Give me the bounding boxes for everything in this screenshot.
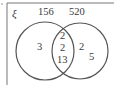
intersection-value-3: 13 bbox=[57, 54, 68, 65]
intersection-value-1: 2 bbox=[60, 30, 65, 41]
set-156-label: 156 bbox=[38, 6, 54, 17]
set-520-label: 520 bbox=[69, 6, 85, 17]
set-520-only-value-1: 2 bbox=[79, 41, 84, 52]
intersection-value-2: 2 bbox=[60, 42, 65, 53]
universal-set-symbol: ξ bbox=[12, 7, 17, 20]
corner-dot bbox=[1, 3, 3, 5]
venn-diagram: ξ 156 520 3 2 2 13 2 5 bbox=[0, 0, 114, 85]
set-520-only-value-2: 5 bbox=[89, 51, 94, 62]
set-156-only-value: 3 bbox=[37, 41, 42, 52]
set-156-circle bbox=[16, 22, 74, 80]
